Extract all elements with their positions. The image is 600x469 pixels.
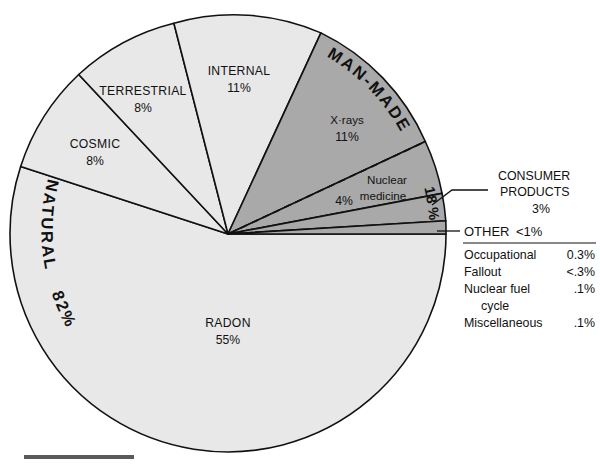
manmade-group-value: 18 [421,185,440,205]
legend-row-sublabel-2: cycle [481,299,509,313]
legend-row-label-1: Fallout [464,265,502,279]
radiation-sources-pie-chart: RADON 55% COSMIC 8% TERRESTRIAL 8% INTER… [0,0,600,469]
scale-bar [24,455,134,459]
internal-value: 11% [227,81,251,95]
nuclear-medicine-value: 4% [335,194,353,208]
legend-row-value-3: .1% [574,316,595,330]
nuclear-medicine-label-line2: medicine [360,189,406,202]
legend-row-label-3: Miscellaneous [464,316,543,330]
terrestrial-value: 8% [134,101,152,115]
terrestrial-label: TERRESTRIAL [99,84,186,98]
cosmic-value: 8% [86,154,104,168]
legend-row-label-0: Occupational [464,248,536,262]
legend-row-label-2: Nuclear fuel [464,282,530,296]
cosmic-label: COSMIC [70,137,121,151]
xrays-value: 11% [335,130,359,144]
legend-header-label: OTHER [464,224,510,239]
consumer-products-label-line2: PRODUCTS [500,185,570,199]
legend-row-value-2: .1% [574,282,595,296]
legend-row-value-1: <.3% [566,265,595,279]
consumer-products-value: 3% [532,202,550,216]
internal-label: INTERNAL [208,64,271,78]
manmade-group-value-percent: % [425,206,442,221]
consumer-products-label-line1: CONSUMER [498,169,570,183]
legend-header-value: <1% [516,224,543,239]
radon-label: RADON [205,316,251,330]
nuclear-medicine-label-line1: Nuclear [367,173,407,186]
xrays-label: X·rays [330,113,364,126]
legend-row-value-0: 0.3% [567,248,595,262]
radon-value: 55% [216,333,241,347]
